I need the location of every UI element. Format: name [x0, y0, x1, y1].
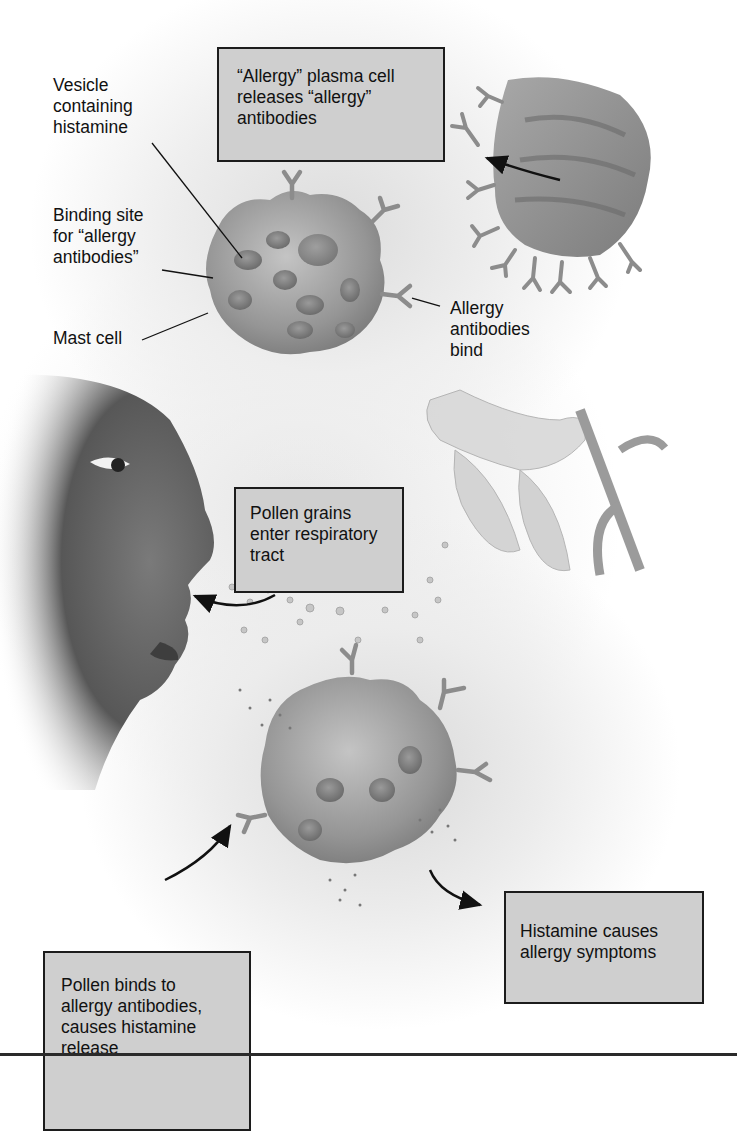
box-pollen-binds: Pollen binds to allergy antibodies, caus…: [43, 951, 251, 1131]
label-vesicle: Vesicle containing histamine: [53, 75, 133, 138]
label-mast-cell: Mast cell: [53, 328, 122, 349]
face-profile: [0, 375, 214, 790]
lily-flower: [427, 390, 665, 575]
box-pollen-enter: Pollen grains enter respiratory tract: [234, 487, 404, 593]
arrow-pollen-enter: [195, 595, 275, 605]
box-histamine-symptoms: Histamine causes allergy symptoms: [504, 891, 704, 1004]
bottom-rule: [0, 1053, 737, 1056]
mast-cell-degranulating: [165, 645, 490, 907]
label-binding-site: Binding site for “allergy antibodies”: [53, 205, 143, 268]
box-plasma-cell: “Allergy” plasma cell releases “allergy”…: [217, 47, 445, 162]
label-antibodies-bind: Allergy antibodies bind: [450, 298, 530, 361]
plasma-cell: [452, 77, 651, 292]
mast-cell-sensitized: [206, 172, 410, 354]
